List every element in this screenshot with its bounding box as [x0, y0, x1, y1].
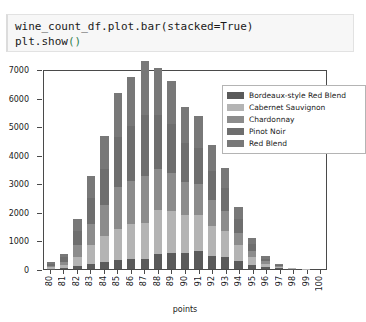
bar-segment [127, 77, 135, 126]
bar-segment [141, 61, 149, 115]
bar-segment [141, 223, 149, 258]
y-axis-tick-label: 2000 [0, 208, 29, 217]
x-axis-tick-mark [77, 270, 78, 274]
x-axis-tick-label: 97 [276, 276, 284, 286]
stacked-bar [261, 256, 269, 269]
x-axis-tick-label: 92 [208, 276, 216, 286]
y-axis-tick-label: 1000 [0, 237, 29, 246]
bar-segment [208, 256, 216, 269]
x-axis-tick-label: 81 [59, 276, 67, 286]
bar-segment [194, 116, 202, 148]
stacked-bar [288, 268, 296, 269]
bar-segment [127, 259, 135, 269]
bar-segment [154, 68, 162, 116]
x-axis-tick-mark [104, 270, 105, 274]
bar-segment [248, 265, 256, 269]
x-axis-tick-label: 80 [46, 276, 54, 286]
bar-segment [114, 260, 122, 269]
bar-segment [114, 137, 122, 186]
stacked-bar [234, 207, 242, 269]
bar-segment [73, 266, 81, 269]
legend-color-swatch [227, 128, 244, 135]
x-axis-tick-mark [131, 270, 132, 274]
bar-segment [60, 268, 68, 269]
x-axis-tick-label: 88 [154, 276, 162, 286]
legend-item: Pinot Noir [227, 126, 361, 137]
x-axis-tick-mark [320, 270, 321, 274]
bar-segment [234, 245, 242, 261]
y-axis-tick-mark [37, 184, 42, 185]
bar-slot [205, 71, 218, 269]
bar-segment [114, 229, 122, 260]
bar-segment [87, 176, 95, 198]
x-axis-tick-label: 82 [73, 276, 81, 286]
bar-segment [73, 257, 81, 266]
y-axis-tick-mark [37, 99, 42, 100]
y-axis-tick-mark [37, 241, 42, 242]
bar-slot [178, 71, 191, 269]
bar-segment [87, 264, 95, 269]
bar-segment [167, 124, 175, 173]
bar-segment [167, 253, 175, 269]
bar-segment [234, 261, 242, 269]
bar-segment [181, 107, 189, 142]
x-axis-tick-label: 89 [167, 276, 175, 286]
bar-segment [234, 233, 242, 246]
x-axis-tick-mark [212, 270, 213, 274]
stacked-bar [208, 145, 216, 269]
bar-slot [138, 71, 151, 269]
code-cell[interactable]: wine_count_df.plot.bar(stacked=True) plt… [6, 14, 354, 52]
legend-item-label: Chardonnay [249, 115, 294, 124]
x-axis-tick-label: 87 [140, 276, 148, 286]
bar-segment [154, 169, 162, 210]
x-axis-tick-mark [307, 270, 308, 274]
x-axis-tick-labels: 8081828384858687888990919293949596979899… [43, 276, 327, 302]
bar-segment [234, 207, 242, 219]
stacked-bar [60, 254, 68, 269]
bar-segment [100, 169, 108, 206]
x-axis-tick-mark [185, 270, 186, 274]
bar-segment [167, 211, 175, 253]
legend-color-swatch [227, 104, 244, 111]
legend-item-label: Red Blend [249, 139, 287, 148]
bar-segment [194, 251, 202, 269]
x-axis-tick-marks [43, 270, 327, 271]
x-axis-tick-mark [171, 270, 172, 274]
y-axis-tick-label: 5000 [0, 123, 29, 132]
bar-segment [261, 267, 269, 269]
bar-segment [127, 224, 135, 259]
bar-segment [208, 171, 216, 200]
x-axis-tick-label: 99 [303, 276, 311, 286]
stacked-bar [114, 93, 122, 269]
bar-segment [154, 210, 162, 255]
bar-segment [87, 224, 95, 246]
bar-segment [100, 136, 108, 169]
legend-color-swatch [227, 116, 244, 123]
x-axis-tick-label: 91 [195, 276, 203, 286]
y-axis-tick-mark [37, 270, 42, 271]
y-axis-tick-mark [37, 127, 42, 128]
bar-slot [192, 71, 205, 269]
x-axis-tick-mark [144, 270, 145, 274]
bar-segment [154, 115, 162, 168]
bar-segment [127, 181, 135, 224]
matplotlib-figure: 01000200030004000500060007000 Bordeaux-s… [0, 60, 360, 322]
x-axis-tick-mark [90, 270, 91, 274]
y-axis-tick-label: 0 [0, 266, 29, 275]
x-axis-tick-label: 86 [127, 276, 135, 286]
bar-segment [194, 215, 202, 252]
stacked-bar [127, 77, 135, 269]
x-axis-tick-label: 100 [316, 276, 324, 291]
bar-slot [165, 71, 178, 269]
x-axis-tick-label: 85 [113, 276, 121, 286]
legend-item-label: Bordeaux-style Red Blend [249, 91, 346, 100]
bar-segment [275, 268, 283, 269]
bar-segment [181, 253, 189, 269]
bar-segment [194, 184, 202, 215]
bar-slot [71, 71, 84, 269]
x-axis-tick-label: 83 [86, 276, 94, 286]
bar-segment [221, 231, 229, 257]
bar-segment [221, 211, 229, 232]
bar-slot [151, 71, 164, 269]
